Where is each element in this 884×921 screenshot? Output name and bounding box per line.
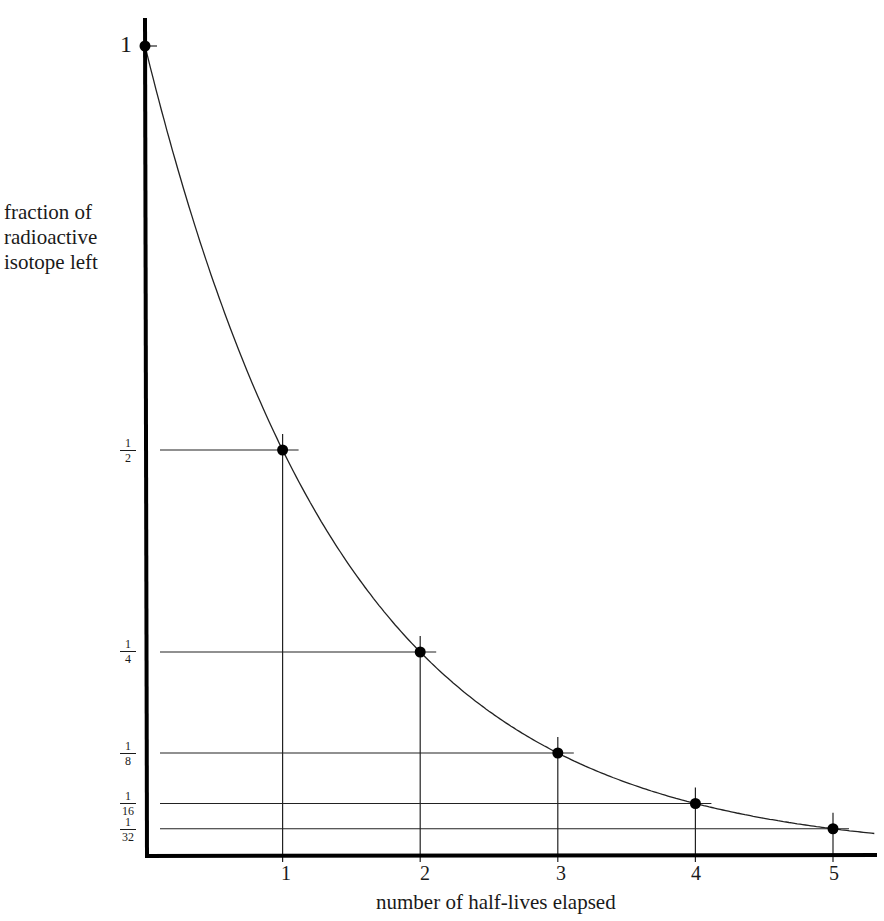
x-tick-4: 4 — [686, 862, 706, 885]
data-points — [140, 41, 839, 835]
y-axis — [145, 18, 147, 857]
data-point — [415, 647, 426, 658]
decay-curve — [145, 46, 874, 834]
x-tick-5: 5 — [824, 862, 844, 885]
y-axis-label: fraction of radioactive isotope left — [4, 200, 98, 275]
data-point — [690, 798, 701, 809]
data-point — [552, 748, 563, 759]
x-tick-1: 1 — [276, 862, 296, 885]
x-tick-3: 3 — [551, 862, 571, 885]
y-tick-quarter: 14 — [114, 638, 142, 665]
y-tick-half: 12 — [114, 437, 142, 464]
x-tick-2: 2 — [415, 862, 435, 885]
x-axis-label: number of half-lives elapsed — [376, 890, 616, 915]
y-tick-thirtysecond: 132 — [114, 816, 142, 843]
data-point — [828, 823, 839, 834]
y-tick-eighth: 18 — [114, 740, 142, 767]
y-tick-1: 1 — [120, 31, 132, 58]
x-axis — [145, 855, 877, 856]
guide-lines — [145, 46, 849, 862]
data-point — [277, 445, 288, 456]
y-tick-sixteenth: 116 — [114, 790, 142, 817]
